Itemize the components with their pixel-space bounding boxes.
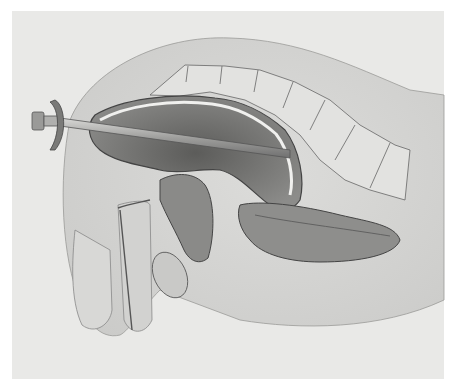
anatomical-illustration (0, 0, 455, 389)
illustration-frame (0, 0, 455, 389)
